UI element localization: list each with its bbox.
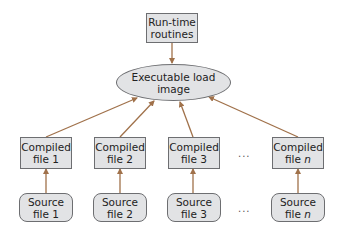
source-file-3-word: file	[181, 208, 200, 220]
compiled-ellipsis: ...	[238, 148, 251, 159]
edge-compiled1-to-load-image	[46, 98, 137, 137]
source-file-1-index: 1	[52, 208, 59, 220]
compiled-file-3-line1: Compiled	[169, 141, 219, 153]
source-file-2-line1: Source	[102, 196, 138, 208]
compiled-file-2-line2: file 2	[107, 153, 133, 165]
compiled-file-2-word: file	[107, 153, 126, 165]
source-file-2-box: Source file 2	[93, 193, 147, 222]
compiled-file-2-index: 2	[126, 153, 133, 165]
source-file-n-line2: file n	[285, 208, 311, 220]
compiled-file-n-line2: file n	[285, 153, 311, 165]
source-file-1-box: Source file 1	[19, 193, 73, 222]
compiled-file-n-word: file	[285, 153, 304, 165]
compiled-file-3-line2: file 3	[181, 153, 207, 165]
compiled-file-n-box: Compiled file n	[272, 137, 324, 169]
compiled-file-3-box: Compiled file 3	[168, 137, 220, 169]
compiled-file-2-line1: Compiled	[95, 141, 145, 153]
compiled-file-n-line1: Compiled	[273, 141, 323, 153]
compiled-file-3-word: file	[181, 153, 200, 165]
edge-compiled-n-to-load-image	[209, 97, 298, 137]
executable-load-image-ellipse: Executable load image	[116, 64, 231, 101]
executable-load-image-label: Executable load image	[117, 71, 230, 95]
source-file-2-index: 2	[126, 208, 133, 220]
source-file-3-box: Source file 3	[167, 193, 221, 222]
compiled-file-3-index: 3	[200, 153, 207, 165]
source-file-1-line1: Source	[28, 196, 64, 208]
compiled-file-1-word: file	[33, 153, 52, 165]
source-file-3-line2: file 3	[181, 208, 207, 220]
source-file-n-word: file	[285, 208, 304, 220]
compiled-file-1-line2: file 1	[33, 153, 59, 165]
runtime-routines-box: Run-time routines	[146, 13, 198, 43]
source-file-1-line2: file 1	[33, 208, 59, 220]
source-file-n-line1: Source	[280, 196, 316, 208]
source-file-1-word: file	[33, 208, 52, 220]
source-file-3-line1: Source	[176, 196, 212, 208]
compiled-file-2-box: Compiled file 2	[94, 137, 146, 169]
source-file-2-line2: file 2	[107, 208, 133, 220]
source-file-n-box: Source file n	[271, 193, 325, 222]
source-ellipsis: ...	[238, 203, 251, 214]
source-file-n-index: n	[304, 208, 311, 220]
compiled-file-1-box: Compiled file 1	[20, 137, 72, 169]
runtime-routines-line1: Run-time	[148, 16, 196, 28]
source-file-3-index: 3	[200, 208, 207, 220]
source-file-2-word: file	[107, 208, 126, 220]
compiled-file-1-line1: Compiled	[21, 141, 71, 153]
compiled-file-n-index: n	[304, 153, 311, 165]
compiled-file-1-index: 1	[52, 153, 59, 165]
runtime-routines-line2: routines	[151, 28, 194, 40]
edge-compiled3-to-load-image	[180, 102, 193, 137]
edge-compiled2-to-load-image	[120, 101, 154, 137]
